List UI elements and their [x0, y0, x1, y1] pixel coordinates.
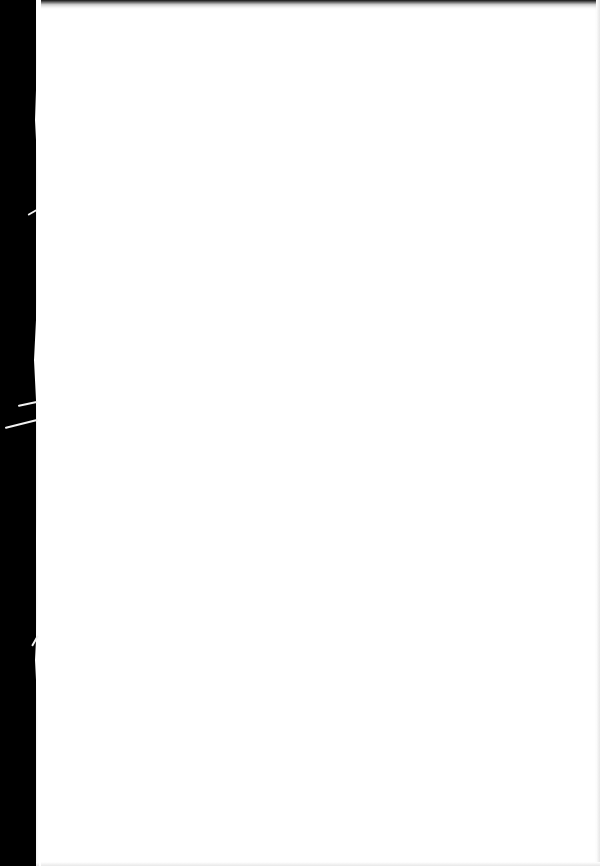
page-right-shade	[596, 0, 600, 866]
torn-page-edge	[33, 0, 41, 866]
page-top-shadow	[36, 0, 600, 5]
page-bottom-shade	[36, 862, 600, 866]
blank-page	[36, 4, 600, 866]
